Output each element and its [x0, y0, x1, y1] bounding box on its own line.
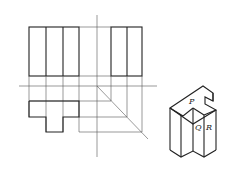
front-view	[29, 27, 142, 76]
label-p: P	[188, 97, 195, 106]
diagram-canvas: P Q R	[0, 0, 239, 172]
label-q: Q	[195, 123, 202, 132]
mitre-line	[97, 86, 148, 139]
label-r: R	[205, 123, 212, 132]
top-view	[29, 101, 79, 132]
